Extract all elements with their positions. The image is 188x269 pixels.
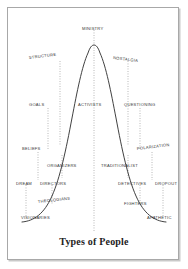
curve-label-directors: DIRECTORS <box>40 182 66 186</box>
curve-label-beliefs: BELIEFS <box>22 147 41 151</box>
figure-title: Types of People <box>0 236 188 247</box>
figure-canvas: MINISTRY STRUCTURE NOSTALGIA GOALS ACTIV… <box>0 0 188 269</box>
curve-label-ministry: MINISTRY <box>82 27 104 31</box>
curve-label-activists: ACTIVISTS <box>78 103 101 107</box>
curve-label-traditionalist: TRADITIONALIST <box>101 164 138 168</box>
bell-curve-plot <box>0 0 188 269</box>
curve-label-fighters: FIGHTERS <box>124 202 147 206</box>
curve-label-dream: DREAM <box>16 182 32 186</box>
curve-label-questioning: QUESTIONING <box>124 103 155 107</box>
curve-label-visionaries: VISIONARIES <box>21 216 50 220</box>
curve-label-detectives: DETECTIVES <box>118 182 146 186</box>
curve-label-goals: GOALS <box>29 103 44 107</box>
curve-label-apathetic: APATHETIC <box>147 216 172 220</box>
curve-label-dropout: DROPOUT <box>155 182 177 186</box>
curve-label-organizers: ORGANIZERS <box>47 164 77 168</box>
